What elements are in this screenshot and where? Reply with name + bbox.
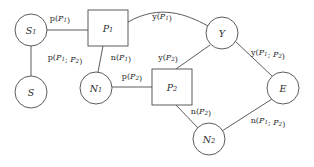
edge-label-n1-p2: p(P2) (122, 72, 142, 83)
edge-label-n2-e: n(P1; P2) (251, 116, 286, 129)
edge-p2-y (176, 45, 210, 69)
graph-diagram: S1 P1 Y S (0, 0, 314, 167)
edge-label-y-e: y(P1; P2) (250, 48, 285, 61)
edge-n2-e (222, 99, 272, 131)
diagram-canvas: S1 P1 Y S (0, 0, 314, 167)
edge-label-p2-n2: n(P2) (191, 107, 211, 118)
node-e-label: E (279, 83, 287, 94)
node-p1[interactable]: P1 (88, 10, 128, 46)
node-y[interactable]: Y (206, 17, 238, 49)
node-s1[interactable]: S1 (15, 14, 47, 46)
edge-y-e (235, 41, 272, 76)
edge-label-p1-n1: n(P1) (111, 53, 131, 64)
node-p2[interactable]: P2 (152, 69, 192, 105)
node-e[interactable]: E (267, 72, 299, 104)
node-layer: S1 P1 Y S (15, 10, 299, 155)
edge-label-p2-y: y(P2) (157, 53, 178, 64)
edge-label-s1-p1: p(P1) (50, 14, 70, 25)
node-s-label: S (28, 87, 35, 98)
node-n2[interactable]: N2 (193, 123, 225, 155)
edge-label-s1-s: p(P1; P2) (48, 53, 83, 66)
edge-label-p1-y: y(P1) (151, 12, 172, 23)
node-n1[interactable]: N1 (80, 72, 112, 104)
node-s[interactable]: S (15, 76, 47, 108)
edge-p1-n1 (98, 46, 103, 72)
